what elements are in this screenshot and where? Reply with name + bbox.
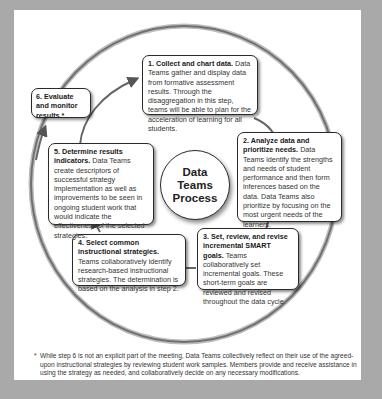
- footnote-marker: *: [34, 352, 37, 361]
- step-4-body: Teams collaboratively identify research-…: [78, 257, 179, 294]
- step-5-body: Data Teams create descriptors of success…: [54, 156, 145, 239]
- step-4-title: 4. Select common instructional strategie…: [78, 238, 159, 256]
- step-2-body: Data Teams identify the strengths and ne…: [243, 145, 333, 228]
- hub-line-1: Data: [173, 166, 218, 179]
- step-5-box: 5. Determine results indicators. Data Te…: [48, 143, 154, 225]
- hub-line-3: Process: [173, 192, 218, 205]
- hub-line-2: Teams: [173, 179, 218, 192]
- step-1-title: 1. Collect and chart data.: [148, 59, 235, 68]
- step-6-box: 6. Evaluate and monitor results.*: [31, 88, 91, 118]
- step-1-body: Data Teams gather and display data from …: [148, 59, 251, 133]
- center-hub: Data Teams Process: [160, 150, 230, 220]
- step-3-box: 3. Set, review, and revise incremental S…: [197, 228, 299, 290]
- step-4-box: 4. Select common instructional strategie…: [72, 234, 186, 286]
- step-2-box: 2. Analyze data and prioritize needs. Da…: [237, 132, 342, 222]
- step-3-body: Teams collaboratively set incremental go…: [203, 251, 286, 306]
- step-1-box: 1. Collect and chart data. Data Teams ga…: [142, 55, 258, 115]
- step-6-title: 6. Evaluate and monitor results.*: [36, 92, 78, 120]
- footnote-text: While step 6 is not an explicit part of …: [40, 352, 357, 376]
- footnote: * While step 6 is not an explicit part o…: [40, 352, 360, 378]
